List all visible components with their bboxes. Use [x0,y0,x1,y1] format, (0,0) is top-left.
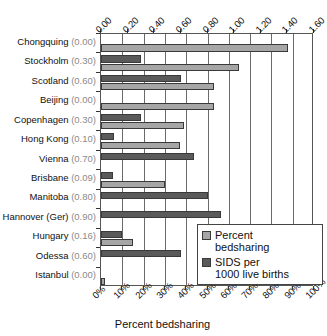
category-label-name: Beijing [40,94,71,105]
category-label: Chongquing (0.00) [1,37,96,47]
category-axis-tick [96,91,100,92]
category-label-name: Manitoba [29,191,71,202]
category-label-value: (0.60) [71,250,96,261]
category-label-value: (0.09) [71,172,96,183]
bottom-axis-tick [100,286,101,290]
legend-swatch-bedsharing-icon [202,231,211,240]
category-label-value: (0.00) [71,94,96,105]
bottom-axis-tick [185,286,186,290]
category-label-value: (0.00) [71,269,96,280]
category-label: Odessa (0.60) [1,251,96,261]
category-label-name: Hannover (Ger) [3,211,72,222]
bottom-axis-tick [164,286,165,290]
category-label-value: (0.10) [71,133,96,144]
bottom-axis-tick [270,286,271,290]
category-label-name: Odessa [36,250,71,261]
bottom-axis-tick [313,286,314,290]
category-label: Stockholm (0.30) [1,56,96,66]
bottom-axis-tick-label: 40% [175,280,196,301]
bottom-axis-tick [143,286,144,290]
category-labels: Chongquing (0.00)Stockholm (0.30)Scotlan… [0,0,96,336]
legend-item-sids: SIDS per 1000 live births [202,256,317,280]
category-axis-tick [96,111,100,112]
bottom-axis-tick-label: 10% [111,280,132,301]
category-label: Brisbane (0.09) [1,173,96,183]
bottom-axis-tick-label: 30% [154,280,175,301]
category-label-name: Stockholm [24,55,71,66]
category-label: Copenhagen (0.30) [1,115,96,125]
category-label-name: Chongquing [17,36,71,47]
category-label-name: Scotland [32,75,72,86]
category-label: Beijing (0.00) [1,95,96,105]
category-label: Hannover (Ger) (0.90) [1,212,96,222]
category-axis-tick [96,169,100,170]
legend-item-bedsharing: Percent bedsharing [202,229,317,253]
legend-swatch-sids-icon [202,258,211,267]
category-label-name: Hong Kong [21,133,71,144]
category-axis-tick [96,228,100,229]
category-label-name: Vienna [39,153,71,164]
bottom-axis-tick [121,286,122,290]
legend-label-sids: SIDS per 1000 live births [215,256,289,280]
category-axis-tick [96,267,100,268]
legend-label-bedsharing: Percent bedsharing [215,229,269,253]
category-axis-tick [96,189,100,190]
category-axis-tick [96,52,100,53]
category-axis-tick [96,150,100,151]
category-axis-tick [96,130,100,131]
category-label: Scotland (0.60) [1,76,96,86]
category-label: Istanbul (0.00) [1,270,96,280]
bottom-axis-tick [249,286,250,290]
category-label-name: Brisbane [31,172,71,183]
category-label-value: (0.30) [71,55,96,66]
category-label-value: (0.00) [71,36,96,47]
category-axis-tick [96,247,100,248]
category-label-value: (0.70) [71,153,96,164]
bottom-axis-tick-label: 20% [133,280,154,301]
category-label-name: Copenhagen [14,114,71,125]
x-axis-title: Percent bedsharing [0,318,325,330]
category-label-value: (0.30) [71,114,96,125]
category-axis-tick [96,208,100,209]
category-label: Vienna (0.70) [1,154,96,164]
bottom-axis-tick [228,286,229,290]
category-label-name: Hungary [33,230,72,241]
category-axis-tick [96,33,100,34]
chart-legend: Percent bedsharing SIDS per 1000 live bi… [197,224,323,285]
category-label: Hungary (0.16) [1,231,96,241]
category-label-value: (0.90) [71,211,96,222]
category-label-value: (0.80) [71,191,96,202]
category-label: Manitoba (0.80) [1,192,96,202]
bottom-axis-tick [207,286,208,290]
bottom-axis-tick [292,286,293,290]
category-axis-tick [96,72,100,73]
category-label-name: Istanbul [35,269,71,280]
category-label: Hong Kong (0.10) [1,134,96,144]
category-label-value: (0.60) [71,75,96,86]
category-label-value: (0.16) [71,230,96,241]
